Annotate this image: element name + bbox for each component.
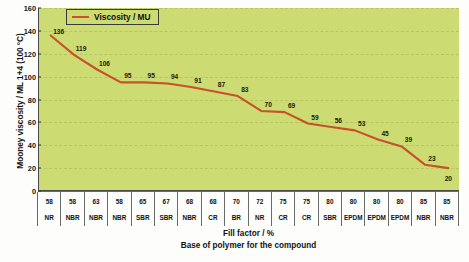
x-axis-polymer-base-value: EPDM bbox=[342, 209, 364, 226]
data-point-label: 23 bbox=[428, 154, 435, 161]
x-axis-fill-factor-value: 68 bbox=[178, 192, 200, 209]
data-point-label: 87 bbox=[218, 81, 225, 88]
x-axis-fill-factor-value: 80 bbox=[342, 192, 364, 209]
x-axis-fill-factor-value: 63 bbox=[85, 192, 107, 209]
x-axis-category-column: 68NBR bbox=[177, 192, 201, 226]
y-axis-tick-label: 60 bbox=[12, 118, 36, 127]
x-axis-fill-factor-value: 75 bbox=[295, 192, 317, 209]
x-axis-polymer-base-value: SBR bbox=[132, 209, 154, 226]
x-axis-fill-factor-value: 65 bbox=[132, 192, 154, 209]
data-point-label: 91 bbox=[194, 76, 201, 83]
data-point-label: 106 bbox=[99, 59, 110, 66]
x-axis-fill-factor-value: 85 bbox=[412, 192, 434, 209]
y-axis-tick-label: 160 bbox=[12, 4, 36, 13]
chart-figure: Mooney viscosity / ML 1+4 (100 °C) 16014… bbox=[0, 0, 469, 262]
x-axis-fill-factor-value: 80 bbox=[319, 192, 341, 209]
y-axis-tick-label: 20 bbox=[12, 164, 36, 173]
x-axis-polymer-base-value: NR bbox=[38, 209, 60, 226]
x-axis-category-column: 58NBR bbox=[107, 192, 131, 226]
data-point-label: 119 bbox=[76, 44, 87, 51]
x-axis-category-column: 85NBR bbox=[411, 192, 435, 226]
y-axis-tick-labels: 160140120100806040200 bbox=[12, 8, 36, 191]
y-axis-tick-mark bbox=[38, 99, 41, 100]
x-axis-category-column: 80EPDM bbox=[364, 192, 388, 226]
x-axis-fill-factor-value: 58 bbox=[61, 192, 83, 209]
x-axis-title-secondary: Base of polymer for the compound bbox=[38, 240, 459, 252]
data-point-label: 39 bbox=[405, 136, 412, 143]
x-axis-fill-factor-value: 68 bbox=[202, 192, 224, 209]
x-axis-category-column: 80EPDM bbox=[341, 192, 365, 226]
x-axis-title-primary: Fill factor / % bbox=[38, 228, 459, 240]
x-axis-polymer-base-value: CR bbox=[272, 209, 294, 226]
data-point-label: 94 bbox=[171, 73, 178, 80]
x-axis-category-column: 70BR bbox=[224, 192, 248, 226]
y-axis-tick-mark bbox=[38, 76, 41, 77]
x-axis-polymer-base-value: EPDM bbox=[365, 209, 387, 226]
x-axis-category-column: 85NBR bbox=[435, 192, 459, 226]
x-axis-fill-factor-value: 75 bbox=[272, 192, 294, 209]
y-axis-tick-label: 100 bbox=[12, 72, 36, 81]
x-axis-polymer-base-value: BR bbox=[225, 209, 247, 226]
data-point-label: 53 bbox=[358, 120, 365, 127]
x-axis-category-table: 58NR58NBR63NBR58NBR65SBR67SBR68NBR68CR70… bbox=[38, 191, 459, 226]
x-axis-category-column: 63NBR bbox=[84, 192, 108, 226]
x-axis-polymer-base-value: EPDM bbox=[389, 209, 411, 226]
legend-label: Viscosity / MU bbox=[94, 12, 151, 22]
x-axis-polymer-base-value: NBR bbox=[108, 209, 130, 226]
x-axis-category-column: 67SBR bbox=[154, 192, 178, 226]
y-axis-tick-mark bbox=[38, 30, 41, 31]
x-axis-fill-factor-value: 80 bbox=[389, 192, 411, 209]
x-axis-polymer-base-value: CR bbox=[202, 209, 224, 226]
legend-line-swatch bbox=[72, 16, 89, 18]
x-axis-fill-factor-value: 67 bbox=[155, 192, 177, 209]
x-axis-category-column: 65SBR bbox=[131, 192, 155, 226]
x-axis-fill-factor-value: 85 bbox=[436, 192, 458, 209]
plot-area: 136119106959594918783706959565345392320 bbox=[38, 8, 459, 191]
chart-legend: Viscosity / MU bbox=[66, 9, 159, 25]
data-point-label: 70 bbox=[265, 100, 272, 107]
x-axis-category-column: 72NR bbox=[248, 192, 272, 226]
y-axis-tick-mark bbox=[38, 53, 41, 54]
data-point-label: 45 bbox=[381, 129, 388, 136]
x-axis-polymer-base-value: NBR bbox=[412, 209, 434, 226]
x-axis-polymer-base-value: NBR bbox=[85, 209, 107, 226]
x-axis-category-column: 58NBR bbox=[60, 192, 84, 226]
x-axis-polymer-base-value: NR bbox=[249, 209, 271, 226]
x-axis-polymer-base-value: SBR bbox=[155, 209, 177, 226]
y-axis-tick-mark bbox=[38, 191, 41, 192]
data-point-label: 20 bbox=[445, 175, 452, 182]
data-point-label: 95 bbox=[148, 72, 155, 79]
series-line-viscosity bbox=[39, 8, 459, 191]
x-axis-titles: Fill factor / % Base of polymer for the … bbox=[38, 228, 459, 251]
y-axis-tick-label: 80 bbox=[12, 95, 36, 104]
data-point-label: 59 bbox=[311, 113, 318, 120]
y-axis-tick-label: 0 bbox=[12, 187, 36, 196]
x-axis-fill-factor-value: 72 bbox=[249, 192, 271, 209]
y-axis-tick-mark bbox=[38, 122, 41, 123]
y-axis-tick-label: 40 bbox=[12, 141, 36, 150]
data-point-label: 83 bbox=[241, 86, 248, 93]
x-axis-category-column: 75CR bbox=[271, 192, 295, 226]
y-axis-tick-mark bbox=[38, 145, 41, 146]
y-axis-tick-label: 120 bbox=[12, 49, 36, 58]
data-point-label: 136 bbox=[53, 28, 64, 35]
x-axis-category-column: 58NR bbox=[37, 192, 61, 226]
x-axis-polymer-base-value: NBR bbox=[61, 209, 83, 226]
x-axis-category-column: 68CR bbox=[201, 192, 225, 226]
x-axis-polymer-base-value: NBR bbox=[178, 209, 200, 226]
y-axis-tick-mark bbox=[38, 8, 41, 9]
data-point-label: 95 bbox=[124, 72, 131, 79]
x-axis-category-column: 75CR bbox=[294, 192, 318, 226]
x-axis-polymer-base-value: NBR bbox=[436, 209, 458, 226]
x-axis-polymer-base-value: SBR bbox=[319, 209, 341, 226]
y-axis-tick-label: 140 bbox=[12, 26, 36, 35]
y-axis-tick-mark bbox=[38, 168, 41, 169]
x-axis-fill-factor-value: 80 bbox=[365, 192, 387, 209]
x-axis-category-column: 80EPDM bbox=[388, 192, 412, 226]
data-point-label: 56 bbox=[335, 116, 342, 123]
x-axis-category-column: 80SBR bbox=[318, 192, 342, 226]
x-axis-fill-factor-value: 70 bbox=[225, 192, 247, 209]
data-point-label: 69 bbox=[288, 102, 295, 109]
x-axis-polymer-base-value: CR bbox=[295, 209, 317, 226]
x-axis-fill-factor-value: 58 bbox=[38, 192, 60, 209]
